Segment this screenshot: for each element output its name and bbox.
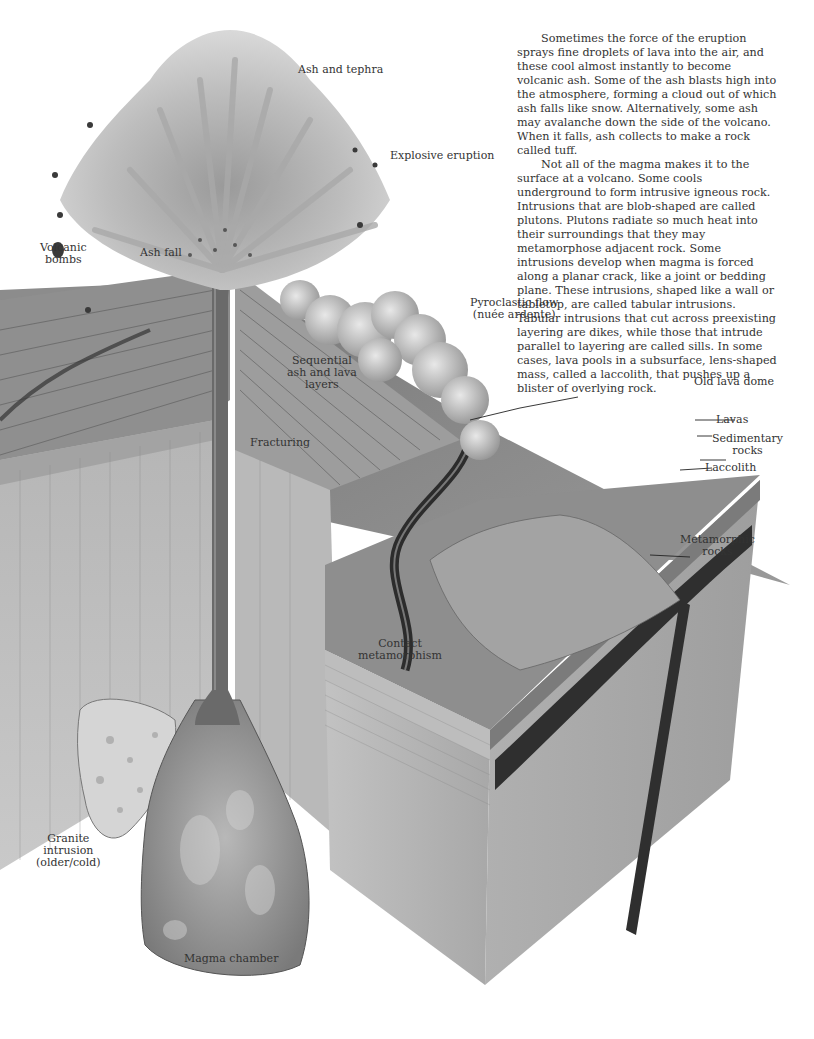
label-line: bombs: [40, 254, 87, 266]
label-ash-fall: Ash fall: [140, 247, 182, 259]
label-laccolith: Laccolith: [705, 462, 756, 474]
label-line: (nuée ardente): [470, 309, 558, 321]
label-old-lava-dome: Old lava dome: [694, 376, 774, 388]
paragraph-ash: Sometimes the force of the eruption spra…: [517, 32, 779, 158]
label-metamorphic-rocks: Metamorphic rocks: [680, 534, 755, 558]
label-fracturing: Fracturing: [250, 437, 310, 449]
body-text: Sometimes the force of the eruption spra…: [517, 32, 779, 396]
label-granite-intrusion: Granite intrusion (older/cold): [36, 833, 101, 869]
label-line: rocks: [680, 546, 755, 558]
paragraph-intrusions: Not all of the magma makes it to the sur…: [517, 158, 779, 396]
label-line: rocks: [712, 445, 783, 457]
label-explosive-eruption: Explosive eruption: [390, 150, 494, 162]
label-line: (older/cold): [36, 857, 101, 869]
label-line: metamorphism: [358, 650, 442, 662]
label-sequential-layers: Sequential ash and lava layers: [287, 355, 357, 391]
label-lavas: Lavas: [716, 414, 748, 426]
label-contact-metamorphism: Contact metamorphism: [358, 638, 442, 662]
label-line: layers: [287, 379, 357, 391]
label-volcanic-bombs: Volcanic bombs: [40, 242, 87, 266]
label-sedimentary-rocks: Sedimentary rocks: [712, 433, 783, 457]
label-pyroclastic-flow: Pyroclastic flow (nuée ardente): [470, 297, 558, 321]
label-magma-chamber: Magma chamber: [184, 953, 278, 965]
label-ash-and-tephra: Ash and tephra: [298, 64, 383, 76]
